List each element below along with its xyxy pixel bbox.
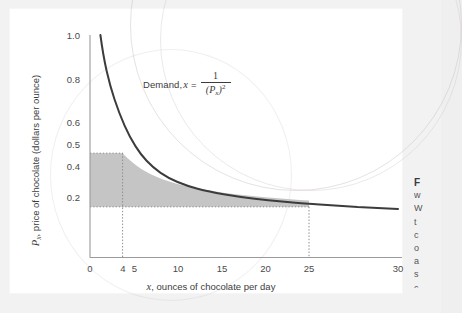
y-tick-label-0.4: 0.4 <box>52 160 80 171</box>
y-axis-title-text: , price of chocolate (dollars per ounce) <box>30 75 41 237</box>
denominator-exponent: 2 <box>222 83 226 91</box>
y-tick-label-0.2: 0.2 <box>52 192 80 203</box>
x-tick-label-10: 10 <box>173 263 184 274</box>
demand-equation-annotation: Demand, x = 1 (Px)2 <box>143 71 231 97</box>
caption-line: c <box>414 282 441 288</box>
y-axis-title: Px, price of chocolate (dollars per ounc… <box>30 61 43 261</box>
caption-line: W <box>414 202 441 215</box>
demand-equals-sign: = <box>190 79 201 90</box>
y-tick-label-1.0: 1.0 <box>52 30 80 41</box>
y-tick-label-0.5: 0.5 <box>52 138 80 149</box>
x-axis-title-text: , ounces of chocolate per day <box>151 281 275 292</box>
y-axis-title-subscript: x <box>34 236 43 239</box>
x-tick-label-30: 30 <box>393 263 404 274</box>
caption-line: w <box>414 189 441 202</box>
figure-card: Demand, x = 1 (Px)2 1.0 0.8 0.6 0.5 0.4 … <box>10 9 402 293</box>
demand-fraction: 1 (Px)2 <box>201 71 231 97</box>
caption-column: F w W t c o a s c <box>414 176 441 288</box>
y-tick-label-0.6: 0.6 <box>52 117 80 128</box>
caption-line: c <box>414 229 441 242</box>
x-tick-label-15: 15 <box>217 263 228 274</box>
y-tick-label-0.8: 0.8 <box>52 73 80 84</box>
x-tick-label-5: 5 <box>132 263 137 274</box>
x-axis-title: x, ounces of chocolate per day <box>10 281 412 292</box>
caption-line: F <box>414 176 441 189</box>
x-tick-label-20: 20 <box>260 263 271 274</box>
caption-line: t <box>414 216 441 229</box>
caption-line: o <box>414 242 441 255</box>
y-axis-title-p: P <box>30 240 41 246</box>
x-tick-label-25: 25 <box>304 263 315 274</box>
x-tick-label-0: 0 <box>87 263 92 274</box>
demand-variable-x: x <box>182 79 190 90</box>
fraction-numerator: 1 <box>213 71 218 82</box>
caption-line: s <box>414 268 441 281</box>
y-axis-title-variable: Px <box>30 236 41 246</box>
fraction-denominator: (Px)2 <box>206 83 226 97</box>
caption-line: a <box>414 255 441 268</box>
x-tick-label-4: 4 <box>120 263 125 274</box>
demand-label: Demand, <box>143 79 182 90</box>
